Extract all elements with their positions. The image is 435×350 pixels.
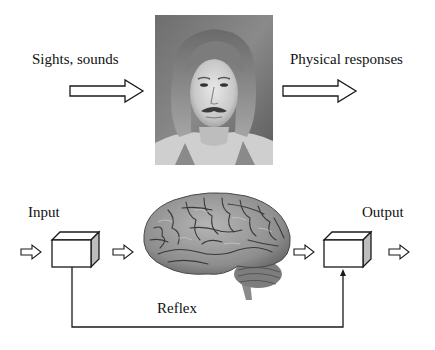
reflex-pathway-line — [72, 267, 343, 327]
reflex-label: Reflex — [157, 301, 197, 316]
input-box — [52, 232, 99, 267]
small-arrow-right-icon — [113, 245, 133, 259]
small-arrow-right-icon — [21, 245, 41, 259]
hollow-arrow-right-icon — [283, 80, 356, 102]
hollow-arrow-right-icon — [70, 80, 143, 102]
output-label: Output — [362, 205, 404, 220]
input-label: Input — [28, 205, 60, 220]
arrowhead-up-icon — [340, 269, 346, 276]
small-arrow-right-icon — [294, 245, 314, 259]
output-box — [324, 232, 371, 267]
small-arrow-right-icon — [389, 245, 409, 259]
